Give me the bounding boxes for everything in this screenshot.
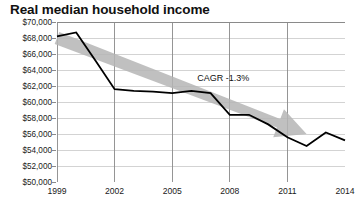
x-axis-tick-label: 2005 xyxy=(163,186,182,196)
y-axis-tick-label: $56,000 xyxy=(22,130,52,139)
y-axis-tick-mark xyxy=(52,134,56,135)
y-axis-tick-mark xyxy=(52,150,56,151)
y-axis-tick-mark xyxy=(52,166,56,167)
income-line-series xyxy=(57,22,345,182)
x-axis-tick-label: 2014 xyxy=(335,186,354,196)
chart-title: Real median household income xyxy=(10,2,210,17)
y-axis-tick-label: $60,000 xyxy=(22,98,52,107)
y-axis-tick-label: $62,000 xyxy=(22,82,52,91)
y-axis-tick-mark xyxy=(52,38,56,39)
y-axis-tick-mark xyxy=(52,86,56,87)
y-axis-tick-mark xyxy=(52,182,56,183)
x-axis-tick-labels: 199920022005200820112014 xyxy=(57,186,345,202)
y-axis-tick-label: $66,000 xyxy=(22,50,52,59)
y-axis-tick-labels: $70,000$68,000$66,000$64,000$62,000$60,0… xyxy=(0,22,52,182)
y-axis-tick-mark xyxy=(52,102,56,103)
y-axis-tick-label: $52,000 xyxy=(22,162,52,171)
chart-container: Real median household income $70,000$68,… xyxy=(0,0,363,210)
y-axis-tick-label: $54,000 xyxy=(22,146,52,155)
y-axis-tick-label: $58,000 xyxy=(22,114,52,123)
x-axis-tick-label: 2008 xyxy=(220,186,239,196)
y-axis-tick-label: $68,000 xyxy=(22,34,52,43)
y-axis-tick-label: $64,000 xyxy=(22,66,52,75)
y-axis-tick-mark xyxy=(52,54,56,55)
y-axis-tick-mark xyxy=(52,70,56,71)
y-axis-tick-mark xyxy=(52,118,56,119)
x-axis-tick-label: 1999 xyxy=(47,186,66,196)
y-axis-tick-mark xyxy=(52,22,56,23)
y-axis-tick-label: $70,000 xyxy=(22,18,52,27)
cagr-annotation-label: CAGR -1.3% xyxy=(197,73,249,83)
plot-area xyxy=(57,22,345,182)
x-axis-tick-label: 2002 xyxy=(105,186,124,196)
x-axis-tick-label: 2011 xyxy=(278,186,296,196)
